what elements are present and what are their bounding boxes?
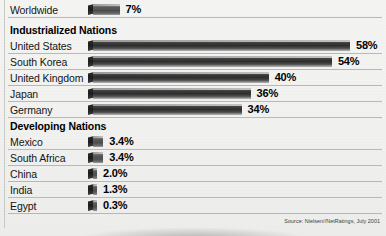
- chart-row: Germany34%: [0, 102, 386, 118]
- bar-highlight: [93, 168, 97, 170]
- chart-row: South Korea54%: [0, 54, 386, 70]
- value-label: 36%: [257, 86, 278, 101]
- bar: [88, 4, 120, 15]
- bar-highlight: [93, 136, 103, 138]
- bar-chart: Worldwide7%Industrialized NationsUnited …: [0, 0, 386, 236]
- chart-row: Japan36%: [0, 86, 386, 102]
- bar-highlight: [93, 72, 269, 74]
- bar: [88, 72, 269, 83]
- value-label: 3.4%: [109, 150, 133, 165]
- category-label: Worldwide: [10, 3, 58, 17]
- bar: [88, 56, 332, 67]
- chart-row: United States58%: [0, 38, 386, 54]
- chart-row: Worldwide7%: [0, 2, 386, 18]
- bar-highlight: [93, 4, 120, 6]
- source-note: Source: Nielsen//NetRatings, July 2001: [284, 218, 380, 224]
- bar-highlight: [93, 104, 242, 106]
- group-heading-label: Developing Nations: [10, 119, 106, 133]
- value-label: 2.0%: [103, 166, 127, 181]
- category-label: Egypt: [10, 199, 36, 213]
- value-label: 7%: [126, 2, 142, 17]
- category-label: United States: [10, 39, 72, 53]
- category-label: India: [10, 183, 32, 197]
- group-heading: Industrialized Nations: [0, 22, 386, 38]
- value-label: 0.3%: [103, 198, 127, 213]
- category-label: South Korea: [10, 55, 67, 69]
- bar-highlight: [93, 184, 97, 186]
- bar-highlight: [93, 40, 350, 42]
- bar: [88, 200, 97, 211]
- value-label: 40%: [275, 70, 296, 85]
- bar: [88, 168, 97, 179]
- bar: [88, 40, 350, 51]
- group-heading: Developing Nations: [0, 118, 386, 134]
- value-label: 1.3%: [103, 182, 127, 197]
- category-label: Mexico: [10, 135, 43, 149]
- chart-row: Egypt0.3%: [0, 198, 386, 214]
- chart-row: China2.0%: [0, 166, 386, 182]
- value-label: 54%: [338, 54, 359, 69]
- bar: [88, 152, 103, 163]
- bar: [88, 104, 242, 115]
- value-label: 34%: [248, 102, 269, 117]
- bar-highlight: [93, 200, 97, 202]
- bar: [88, 88, 251, 99]
- bar: [88, 184, 97, 195]
- bar-highlight: [93, 56, 332, 58]
- chart-row: South Africa3.4%: [0, 150, 386, 166]
- group-heading-label: Industrialized Nations: [10, 23, 117, 37]
- chart-row: United Kingdom40%: [0, 70, 386, 86]
- category-label: China: [10, 167, 37, 181]
- row-separator: [8, 17, 382, 18]
- bar: [88, 136, 103, 147]
- bar-highlight: [93, 88, 251, 90]
- category-label: South Africa: [10, 151, 65, 165]
- bar-highlight: [93, 152, 103, 154]
- row-separator: [8, 213, 382, 214]
- category-label: United Kingdom: [10, 71, 83, 85]
- chart-row: Mexico3.4%: [0, 134, 386, 150]
- category-label: Japan: [10, 87, 38, 101]
- value-label: 3.4%: [109, 134, 133, 149]
- value-label: 58%: [356, 38, 377, 53]
- chart-row: India1.3%: [0, 182, 386, 198]
- category-label: Germany: [10, 103, 52, 117]
